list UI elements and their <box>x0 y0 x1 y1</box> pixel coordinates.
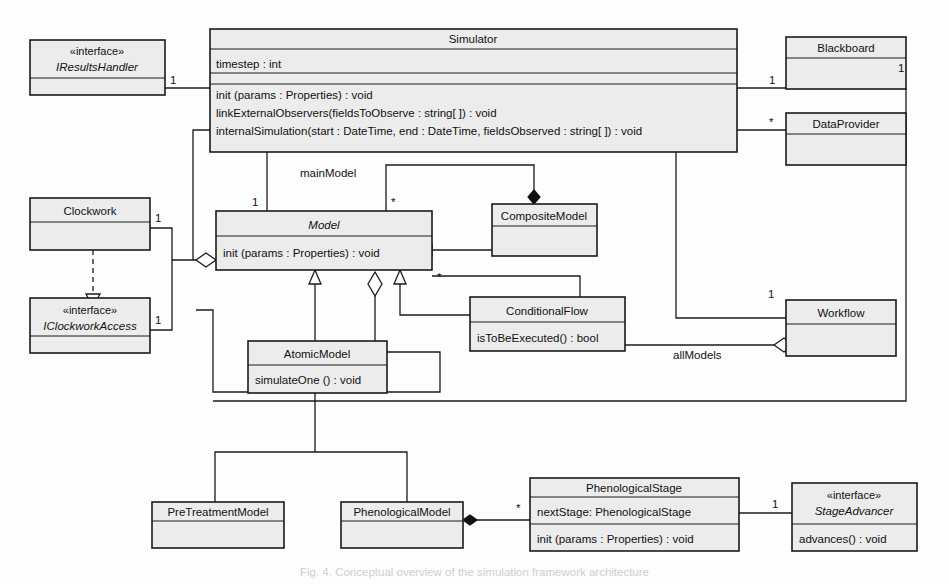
multiplicity-model-allmodels: * <box>437 271 442 283</box>
multiplicity-workflow: 1 <box>768 288 774 300</box>
generalization-arrow-conditionalflow <box>394 270 406 284</box>
class-box-pretreatmentmodel[interactable]: PreTreatmentModel <box>152 502 284 548</box>
class-stereotype-iclockworkaccess: «interface» <box>63 304 117 316</box>
class-name-clockwork: Clockwork <box>63 205 116 217</box>
class-box-conditionalflow[interactable]: ConditionalFlow isToBeExecuted() : bool <box>470 297 625 351</box>
class-box-compositemodel[interactable]: CompositeModel <box>492 204 597 256</box>
class-name-workflow: Workflow <box>817 307 865 319</box>
link-clockwork-model <box>150 228 196 260</box>
multiplicity-blackboard-right: 1 <box>898 62 904 74</box>
class-box-model[interactable]: Model init (params : Properties) : void <box>216 211 432 270</box>
multiplicity-stageadvancer: 1 <box>772 498 778 510</box>
class-box-workflow[interactable]: Workflow <box>786 300 896 356</box>
class-operation-atomicmodel-0: simulateOne () : void <box>255 374 361 386</box>
class-name-conditionalflow: ConditionalFlow <box>506 305 589 317</box>
aggregation-diamond-model-bottom <box>368 272 382 296</box>
class-name-iresultshandler: IResultsHandler <box>56 61 139 73</box>
link-simulator-modelgroup <box>193 130 210 260</box>
class-box-simulator[interactable]: Simulator timestep : int init (params : … <box>210 29 737 152</box>
multiplicity-mainmodel: 1 <box>252 196 258 208</box>
generalization-arrow-atomicmodel <box>309 270 321 284</box>
class-operation-simulator-0: init (params : Properties) : void <box>216 89 373 101</box>
class-box-iresultshandler[interactable]: «interface» IResultsHandler <box>30 40 165 95</box>
class-box-atomicmodel[interactable]: AtomicModel simulateOne () : void <box>248 341 387 393</box>
link-conditionalflow-inherit <box>400 284 470 315</box>
class-attribute-simulator-0: timestep : int <box>216 58 282 70</box>
class-operation-stageadvancer-0: advances() : void <box>799 533 887 545</box>
class-operation-phenologicalstage-0: init (params : Properties) : void <box>537 533 694 545</box>
class-name-phenologicalstage: PhenologicalStage <box>586 482 682 494</box>
class-name-iclockworkaccess: IClockworkAccess <box>43 320 137 332</box>
multiplicity-dataprovider: * <box>769 116 774 128</box>
class-name-pretreatmentmodel: PreTreatmentModel <box>167 506 268 518</box>
uml-class-diagram-canvas: Simulator left@y=88 --> Blackboard (1) -… <box>0 0 949 584</box>
multiplicity-clockwork: 1 <box>155 212 161 224</box>
class-box-clockwork[interactable]: Clockwork <box>30 198 150 250</box>
class-name-dataprovider: DataProvider <box>812 118 879 130</box>
link-phenologicalmodel-branch <box>315 452 407 502</box>
class-name-atomicmodel: AtomicModel <box>284 348 350 360</box>
class-box-iclockworkaccess[interactable]: «interface» IClockworkAccess <box>30 298 150 353</box>
class-attribute-phenologicalstage-0: nextStage: PhenologicalStage <box>537 506 691 518</box>
multiplicity-iclockworkaccess: 1 <box>155 314 161 326</box>
aggregation-diamond-model-left <box>196 253 216 267</box>
class-box-blackboard[interactable]: Blackboard <box>786 37 906 89</box>
role-label-allmodels: allModels <box>673 349 722 361</box>
class-box-dataprovider[interactable]: DataProvider <box>786 113 906 165</box>
multiplicity-iresultshandler: 1 <box>170 74 176 86</box>
class-name-phenologicalmodel: PhenologicalModel <box>353 506 450 518</box>
class-stereotype-stageadvancer: «interface» <box>827 489 881 501</box>
class-operation-model-0: init (params : Properties) : void <box>223 247 380 259</box>
class-box-stageadvancer[interactable]: «interface» StageAdvancer advances() : v… <box>792 483 917 551</box>
class-operation-simulator-1: linkExternalObservers(fieldsToObserve : … <box>216 107 497 119</box>
diagram-svg: Simulator left@y=88 --> Blackboard (1) -… <box>0 0 949 584</box>
class-name-blackboard: Blackboard <box>817 42 875 54</box>
class-name-stageadvancer: StageAdvancer <box>815 505 895 517</box>
composition-diamond-phenologicalmodel <box>463 515 477 525</box>
class-operation-simulator-2: internalSimulation(start : DateTime, end… <box>216 125 642 137</box>
composition-diamond-compositemodel <box>528 190 540 204</box>
class-stereotype-iresultshandler: «interface» <box>70 45 124 57</box>
multiplicity-compositemodel: * <box>391 196 396 208</box>
class-box-phenologicalmodel[interactable]: PhenologicalModel <box>341 502 463 548</box>
figure-caption: Fig. 4. Conceptual overview of the simul… <box>0 566 949 584</box>
class-name-model: Model <box>308 219 340 231</box>
multiplicity-phenostage: * <box>516 502 521 514</box>
multiplicity-blackboard-left: 1 <box>769 74 775 86</box>
class-box-phenologicalstage[interactable]: PhenologicalStage nextStage: Phenologica… <box>530 478 739 551</box>
class-name-simulator: Simulator <box>449 33 498 45</box>
link-atomicmodel-subclasses <box>215 393 315 502</box>
role-label-mainmodel: mainModel <box>300 167 356 179</box>
class-operation-conditionalflow-0: isToBeExecuted() : bool <box>477 332 598 344</box>
class-name-compositemodel: CompositeModel <box>501 210 587 222</box>
